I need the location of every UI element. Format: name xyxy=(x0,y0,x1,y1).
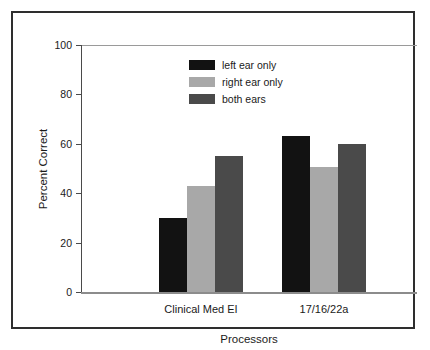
legend-item-2: both ears xyxy=(189,91,283,106)
y-tick-mark xyxy=(76,193,81,194)
y-tick-label: 80 xyxy=(60,88,72,100)
legend-item-1: right ear only xyxy=(189,74,283,89)
bar-group-1 xyxy=(282,45,366,292)
legend-swatch-2 xyxy=(189,94,215,104)
y-axis-line xyxy=(81,45,82,292)
legend-item-0: left ear only xyxy=(189,57,283,72)
legend-label-2: both ears xyxy=(222,93,266,105)
legend: left ear onlyright ear onlyboth ears xyxy=(189,57,283,108)
y-tick-mark xyxy=(76,94,81,95)
legend-label-0: left ear only xyxy=(222,59,276,71)
gridline-top xyxy=(81,45,417,46)
y-tick-label: 100 xyxy=(54,39,72,51)
y-tick-label: 60 xyxy=(60,138,72,150)
bar-0-0 xyxy=(159,218,187,292)
bar-1-1 xyxy=(310,167,338,292)
x-axis-line xyxy=(81,292,417,294)
y-tick-label: 0 xyxy=(66,286,72,298)
y-tick-mark xyxy=(76,144,81,145)
x-tick-label-0: Clinical Med EI xyxy=(164,303,237,315)
y-tick-mark xyxy=(76,45,81,46)
bar-1-0 xyxy=(282,136,310,292)
legend-swatch-1 xyxy=(189,77,215,87)
y-tick-mark xyxy=(76,243,81,244)
y-axis-label-container: Percent Correct xyxy=(43,45,44,292)
y-axis-label: Percent Correct xyxy=(37,128,49,209)
y-tick-label: 40 xyxy=(60,187,72,199)
bar-0-2 xyxy=(215,156,243,292)
legend-label-1: right ear only xyxy=(222,76,283,88)
bar-1-2 xyxy=(338,144,366,292)
figure-frame: Percent Correct 020406080100 Clinical Me… xyxy=(11,11,415,329)
y-tick-mark xyxy=(76,292,81,293)
legend-swatch-0 xyxy=(189,60,215,70)
x-axis-label: Processors xyxy=(220,333,278,345)
bar-0-1 xyxy=(187,186,215,292)
x-tick-label-1: 17/16/22a xyxy=(300,303,349,315)
y-tick-label: 20 xyxy=(60,237,72,249)
bar-chart-figure: Percent Correct 020406080100 Clinical Me… xyxy=(0,0,430,350)
